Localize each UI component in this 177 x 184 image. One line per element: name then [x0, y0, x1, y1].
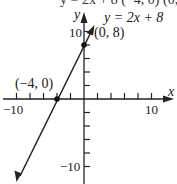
point-y-intercept	[81, 42, 87, 48]
point-label-x-intercept: (−4, 0)	[15, 77, 53, 91]
y-tick-label-neg10: −10	[60, 160, 80, 173]
coordinate-plane	[0, 0, 177, 184]
equation-label: y = 2x + 8	[104, 11, 163, 25]
line-lower-arrow-icon	[15, 171, 22, 183]
x-axis-label: x	[168, 85, 174, 99]
point-x-intercept	[54, 96, 60, 102]
y-axis-label: y	[74, 8, 80, 22]
point-label-y-intercept: (0, 8)	[94, 26, 124, 40]
y-tick-label-10: 10	[69, 26, 82, 39]
graph-line	[20, 32, 91, 176]
y-axis-arrow-icon	[81, 12, 88, 23]
x-tick-label-neg10: −10	[3, 103, 23, 116]
x-tick-label-10: 10	[145, 103, 158, 116]
